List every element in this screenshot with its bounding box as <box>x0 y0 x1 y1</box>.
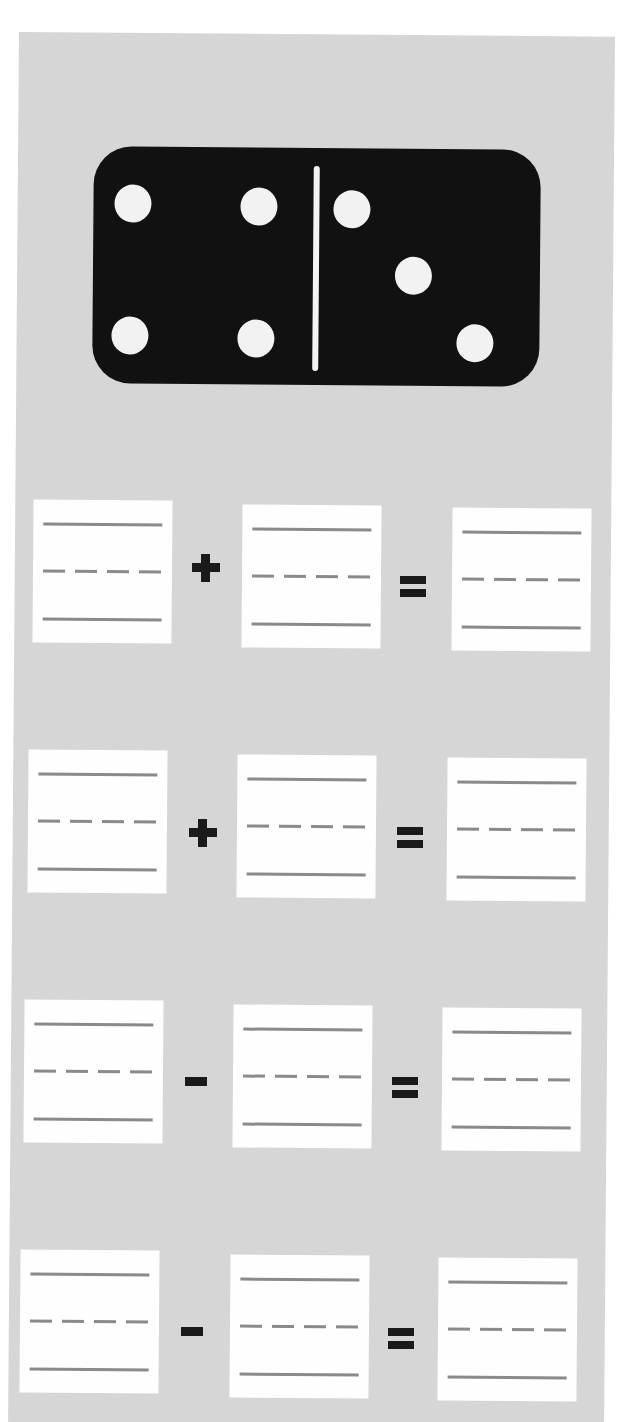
guide-line-dashed <box>457 828 576 832</box>
domino-pip-left-4 <box>237 319 274 357</box>
guide-line-top <box>452 1031 571 1035</box>
domino-pip-right-1 <box>333 190 370 228</box>
answer-box-subtrahend[interactable] <box>232 1004 372 1148</box>
guide-line-top <box>247 778 366 782</box>
guide-line-bottom <box>38 868 157 872</box>
domino-pip-right-2 <box>395 257 432 295</box>
answer-box-result[interactable] <box>446 757 586 901</box>
guide-line-top <box>240 1278 359 1282</box>
minus-icon: - <box>185 1077 207 1086</box>
guide-line-dashed <box>43 570 162 574</box>
answer-box-minuend[interactable] <box>23 999 163 1143</box>
worksheet-page: 4 3 + = <box>0 0 637 1422</box>
guide-line-top <box>43 523 162 527</box>
guide-line-bottom <box>457 876 576 880</box>
domino-tile: 4 3 <box>92 146 541 387</box>
guide-line-top <box>38 773 157 777</box>
answer-box-subtrahend[interactable] <box>229 1254 369 1398</box>
domino-pip-right-3 <box>456 324 493 362</box>
guide-line-dashed <box>243 1075 362 1079</box>
guide-line-top <box>243 1028 362 1032</box>
domino-pip-left-2 <box>240 187 277 225</box>
guide-line-bottom <box>243 1123 362 1127</box>
guide-line-bottom <box>448 1376 567 1380</box>
domino-pip-left-3 <box>111 316 148 354</box>
equals-icon: = <box>400 576 426 598</box>
guide-line-top <box>462 531 581 535</box>
guide-line-dashed <box>462 578 581 582</box>
equals-icon: = <box>388 1328 414 1350</box>
equals-icon: = <box>397 827 423 849</box>
guide-line-dashed <box>34 1070 153 1074</box>
guide-line-bottom <box>43 618 162 622</box>
answer-box-result[interactable] <box>437 1257 577 1401</box>
plus-icon: + <box>192 554 220 582</box>
guide-line-bottom <box>252 623 371 627</box>
minus-icon: - <box>181 1327 203 1336</box>
guide-line-bottom <box>247 873 366 877</box>
domino-divider <box>312 166 320 371</box>
guide-line-bottom <box>30 1368 149 1372</box>
guide-line-top <box>448 1281 567 1285</box>
answer-box-result[interactable] <box>441 1007 581 1151</box>
guide-line-bottom <box>34 1118 153 1122</box>
answer-box-addend-1[interactable] <box>32 499 172 643</box>
domino-pip-left-1 <box>114 184 151 222</box>
guide-line-dashed <box>247 825 366 829</box>
guide-line-dashed <box>240 1325 359 1329</box>
plus-icon: + <box>189 819 217 847</box>
guide-line-top <box>34 1023 153 1027</box>
answer-box-addend-1[interactable] <box>27 749 167 893</box>
guide-line-top <box>457 781 576 785</box>
guide-line-bottom <box>452 1126 571 1130</box>
guide-line-dashed <box>448 1328 567 1332</box>
guide-line-top <box>252 528 371 532</box>
answer-box-addend-2[interactable] <box>241 504 381 648</box>
answer-box-minuend[interactable] <box>19 1249 159 1393</box>
guide-line-bottom <box>462 626 581 630</box>
guide-line-dashed <box>252 575 371 579</box>
guide-line-dashed <box>452 1078 571 1082</box>
equals-icon: = <box>392 1077 418 1099</box>
guide-line-top <box>30 1273 149 1277</box>
answer-box-addend-2[interactable] <box>236 754 376 898</box>
answer-box-result[interactable] <box>451 507 591 651</box>
guide-line-bottom <box>240 1373 359 1377</box>
guide-line-dashed <box>30 1320 149 1324</box>
guide-line-dashed <box>38 820 157 824</box>
